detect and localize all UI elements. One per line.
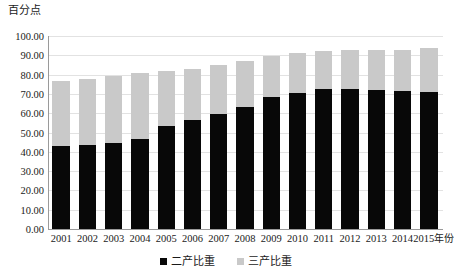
x-axis-tick-label: 2007 — [208, 232, 229, 246]
bar-segment-secondary-industry — [52, 146, 69, 229]
x-axis-tick-label: 2003 — [103, 232, 124, 246]
bar-group — [52, 81, 69, 229]
bar-segment-secondary-industry — [420, 92, 437, 229]
bar-segment-tertiary-industry — [210, 65, 227, 114]
bar-segment-tertiary-industry — [52, 81, 69, 146]
x-axis-tick-label-text: 2013 — [366, 233, 387, 244]
bar-segment-tertiary-industry — [341, 50, 358, 89]
bar-segment-secondary-industry — [315, 89, 332, 229]
bar-segment-secondary-industry — [236, 107, 253, 229]
bar-group — [184, 69, 201, 229]
x-axis-tick-label: 2014 — [392, 232, 413, 246]
x-axis-tick-label-text: 2012 — [340, 233, 361, 244]
bar-segment-tertiary-industry — [184, 69, 201, 120]
x-axis-tick-label-text: 2010 — [287, 233, 308, 244]
x-axis-tick-label: 2010 — [287, 232, 308, 246]
x-axis-tick-label: 2012 — [340, 232, 361, 246]
y-axis-tick-label: 30.00 — [0, 166, 44, 177]
y-axis-tick-label: 10.00 — [0, 204, 44, 215]
x-axis-tick-label-text: 2003 — [103, 233, 124, 244]
bar-group — [158, 71, 175, 229]
x-axis-tick-label-text: 2001 — [51, 233, 72, 244]
x-axis-tick-label: 2002 — [77, 232, 98, 246]
legend-item-label: 二产比重 — [171, 255, 215, 268]
y-axis-unit-label: 百分点 — [8, 4, 42, 17]
bar-group — [236, 61, 253, 229]
bar-segment-secondary-industry — [368, 90, 385, 229]
bar-segment-secondary-industry — [263, 97, 280, 229]
bar-group — [368, 50, 385, 229]
gridline — [49, 229, 443, 230]
bar-segment-secondary-industry — [105, 143, 122, 229]
x-axis-tick-label-text: 2007 — [208, 233, 229, 244]
y-axis-tick-label: 20.00 — [0, 185, 44, 196]
x-axis-tick-label-text: 2008 — [235, 233, 256, 244]
x-axis-tick-label-text: 2006 — [182, 233, 203, 244]
x-axis-tick-label: 2009 — [261, 232, 282, 246]
bar-segment-tertiary-industry — [131, 73, 148, 139]
bar-segment-secondary-industry — [289, 93, 306, 229]
x-axis-unit-label: 年份 — [434, 233, 454, 244]
bar-segment-tertiary-industry — [236, 61, 253, 107]
x-axis-tick-label-text: 2009 — [261, 233, 282, 244]
x-axis-tick-label: 2011 — [313, 232, 334, 246]
x-axis-tick-label: 2005 — [156, 232, 177, 246]
x-axis-tick-label: 2001 — [51, 232, 72, 246]
bar-segment-tertiary-industry — [263, 56, 280, 97]
x-axis-tick-label: 2013 — [366, 232, 387, 246]
bar-group — [210, 65, 227, 229]
bar-group — [105, 76, 122, 229]
x-axis-tick-label-text: 2005 — [156, 233, 177, 244]
legend-swatch-secondary-industry — [160, 258, 167, 265]
x-axis-tick-label: 2008 — [235, 232, 256, 246]
bar-group — [289, 53, 306, 229]
y-axis-tick-label: 40.00 — [0, 146, 44, 157]
bar-segment-tertiary-industry — [368, 50, 385, 91]
bar-group — [315, 51, 332, 229]
x-axis-tick-label-text: 2004 — [129, 233, 150, 244]
bar-segment-tertiary-industry — [420, 48, 437, 92]
y-axis-tick-label: 90.00 — [0, 50, 44, 61]
bar-segment-secondary-industry — [79, 145, 96, 229]
bar-segment-secondary-industry — [131, 139, 148, 229]
bar-group — [341, 50, 358, 229]
legend-item-label: 三产比重 — [248, 255, 292, 268]
y-axis-tick-label: 70.00 — [0, 88, 44, 99]
bar-segment-tertiary-industry — [158, 71, 175, 126]
bar-group — [420, 48, 437, 229]
y-axis-tick-label: 100.00 — [0, 31, 44, 42]
bar-segment-tertiary-industry — [289, 53, 306, 93]
bar-segment-tertiary-industry — [394, 50, 411, 91]
y-axis-tick-label: 50.00 — [0, 127, 44, 138]
x-axis-tick-label-text: 2015 — [413, 233, 434, 244]
bar-group — [79, 79, 96, 229]
x-axis-tick-label-text: 2011 — [313, 233, 334, 244]
bar-segment-secondary-industry — [394, 91, 411, 229]
y-axis-tick-label: 60.00 — [0, 108, 44, 119]
legend-item[interactable]: 三产比重 — [237, 255, 292, 268]
bars-layer — [48, 36, 442, 229]
x-axis-tick-label: 2004 — [129, 232, 150, 246]
y-axis-tick-label: 80.00 — [0, 69, 44, 80]
bar-segment-secondary-industry — [341, 89, 358, 229]
legend-swatch-tertiary-industry — [237, 258, 244, 265]
legend-item[interactable]: 二产比重 — [160, 255, 215, 268]
bar-group — [263, 56, 280, 229]
chart-legend: 二产比重三产比重 — [0, 255, 452, 268]
bar-segment-secondary-industry — [158, 126, 175, 229]
x-axis-tick-label-text: 2014 — [392, 233, 413, 244]
x-axis-tick-label-text: 2002 — [77, 233, 98, 244]
x-axis-tick-label: 2006 — [182, 232, 203, 246]
bar-segment-tertiary-industry — [105, 76, 122, 143]
bar-group — [394, 50, 411, 229]
x-axis-tick-labels: 2001200220032004200520062007200820092010… — [48, 232, 452, 248]
y-axis-tick-label: 0.00 — [0, 224, 44, 235]
x-axis-tick-label: 2015年份 — [413, 232, 454, 246]
bar-segment-tertiary-industry — [79, 79, 96, 145]
bar-group — [131, 73, 148, 229]
bar-segment-secondary-industry — [184, 120, 201, 229]
bar-segment-tertiary-industry — [315, 51, 332, 89]
y-axis-tick-labels: 100.0090.0080.0070.0060.0050.0040.0030.0… — [0, 36, 44, 229]
bar-segment-secondary-industry — [210, 114, 227, 229]
